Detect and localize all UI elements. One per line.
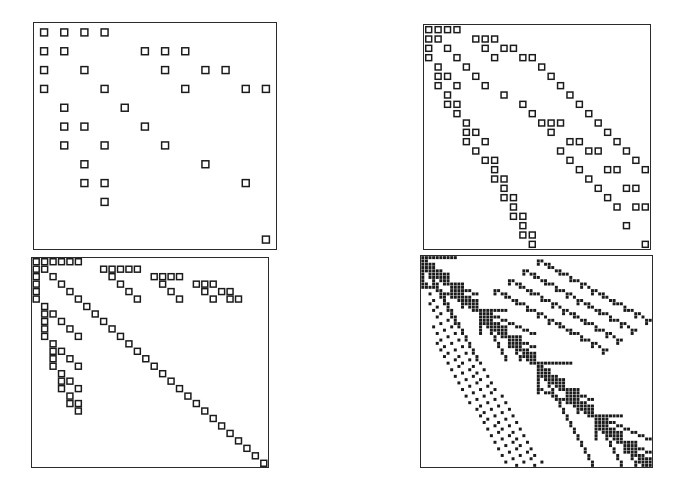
matrix-entry-marker bbox=[566, 395, 569, 398]
matrix-entry-marker bbox=[494, 309, 497, 312]
matrix-entry-marker bbox=[634, 451, 637, 454]
matrix-entry-marker bbox=[551, 306, 554, 309]
matrix-entry-marker bbox=[439, 279, 442, 282]
matrix-entry-marker bbox=[486, 401, 489, 404]
matrix-entry-marker bbox=[141, 48, 148, 55]
matrix-entry-marker bbox=[457, 381, 460, 384]
matrix-entry-marker bbox=[118, 333, 124, 339]
matrix-entry-marker bbox=[548, 375, 551, 378]
matrix-entry-marker bbox=[616, 414, 619, 417]
matrix-entry-marker bbox=[551, 388, 554, 391]
matrix-entry-marker bbox=[580, 441, 583, 444]
matrix-entry-marker bbox=[445, 73, 451, 79]
matrix-entry-marker bbox=[479, 362, 482, 365]
matrix-entry-marker bbox=[540, 388, 543, 391]
matrix-entry-marker bbox=[219, 289, 225, 295]
matrix-entry-marker bbox=[587, 411, 590, 414]
matrix-entry-marker bbox=[450, 342, 453, 345]
matrix-entry-marker bbox=[609, 431, 612, 434]
matrix-entry-marker bbox=[623, 451, 626, 454]
matrix-entry-marker bbox=[504, 296, 507, 299]
matrix-entry-marker bbox=[520, 55, 526, 61]
matrix-entry-marker bbox=[219, 423, 225, 429]
matrix-entry-marker bbox=[42, 266, 48, 272]
matrix-entry-marker bbox=[515, 283, 518, 286]
matrix-entry-marker bbox=[645, 451, 648, 454]
matrix-entry-marker bbox=[504, 319, 507, 322]
matrix-entry-marker bbox=[562, 378, 565, 381]
matrix-entry-marker bbox=[598, 418, 601, 421]
matrix-entry-marker bbox=[168, 378, 174, 384]
matrix-entry-marker bbox=[497, 289, 500, 292]
matrix-entry-marker bbox=[490, 322, 493, 325]
matrix-entry-marker bbox=[432, 269, 435, 272]
matrix-entry-marker bbox=[584, 447, 587, 450]
matrix-entry-marker bbox=[483, 319, 486, 322]
matrix-entry-marker bbox=[602, 312, 605, 315]
matrix-entry-marker bbox=[501, 292, 504, 295]
matrix-entry-marker bbox=[551, 375, 554, 378]
matrix-entry-marker bbox=[548, 362, 551, 365]
matrix-entry-marker bbox=[649, 451, 652, 454]
matrix-entry-marker bbox=[530, 332, 533, 335]
matrix-entry-marker bbox=[533, 273, 536, 276]
matrix-entry-marker bbox=[501, 411, 504, 414]
matrix-entry-marker bbox=[497, 322, 500, 325]
matrix-entry-marker bbox=[591, 322, 594, 325]
matrix-entry-marker bbox=[160, 281, 166, 287]
matrix-entry-marker bbox=[151, 274, 157, 280]
matrix-entry-marker bbox=[494, 325, 497, 328]
matrix-entry-marker bbox=[494, 398, 497, 401]
matrix-entry-marker bbox=[475, 306, 478, 309]
matrix-entry-marker bbox=[483, 322, 486, 325]
matrix-entry-marker bbox=[490, 312, 493, 315]
matrix-entry-marker bbox=[177, 296, 183, 302]
matrix-entry-marker bbox=[501, 176, 507, 182]
matrix-entry-marker bbox=[573, 296, 576, 299]
matrix-entry-marker bbox=[508, 345, 511, 348]
matrix-entry-marker bbox=[508, 424, 511, 427]
matrix-entry-marker bbox=[605, 296, 608, 299]
matrix-entry-marker bbox=[569, 398, 572, 401]
matrix-entry-marker bbox=[439, 269, 442, 272]
matrix-entry-marker bbox=[447, 302, 450, 305]
matrix-entry-marker bbox=[577, 405, 580, 408]
matrix-entry-marker bbox=[439, 276, 442, 279]
matrix-entry-marker bbox=[457, 296, 460, 299]
matrix-entry-marker bbox=[641, 454, 644, 457]
matrix-entry-marker bbox=[473, 73, 479, 79]
matrix-entry-marker bbox=[468, 345, 471, 348]
matrix-entry-marker bbox=[526, 342, 529, 345]
matrix-entry-marker bbox=[616, 319, 619, 322]
matrix-entry-marker bbox=[616, 454, 619, 457]
matrix-entry-marker bbox=[569, 276, 572, 279]
matrix-entry-marker bbox=[61, 104, 68, 111]
matrix-entry-marker bbox=[483, 411, 486, 414]
matrix-entry-marker bbox=[262, 236, 269, 243]
matrix-entry-marker bbox=[558, 289, 561, 292]
matrix-entry-marker bbox=[522, 461, 525, 464]
matrix-entry-marker bbox=[479, 388, 482, 391]
matrix-entry-marker bbox=[620, 322, 623, 325]
matrix-entry-marker bbox=[544, 368, 547, 371]
matrix-entry-marker bbox=[638, 461, 641, 464]
matrix-entry-marker bbox=[634, 447, 637, 450]
matrix-entry-marker bbox=[118, 266, 124, 272]
matrix-entry-marker bbox=[472, 348, 475, 351]
matrix-entry-marker bbox=[512, 322, 515, 325]
matrix-entry-marker bbox=[504, 332, 507, 335]
matrix-entry-marker bbox=[598, 414, 601, 417]
matrix-entry-marker bbox=[566, 401, 569, 404]
matrix-entry-marker bbox=[141, 123, 148, 130]
matrix-entry-marker bbox=[602, 292, 605, 295]
matrix-entry-marker bbox=[429, 286, 432, 289]
matrix-entry-marker bbox=[483, 316, 486, 319]
matrix-entry-marker bbox=[501, 309, 504, 312]
matrix-entry-marker bbox=[425, 283, 428, 286]
matrix-entry-marker bbox=[461, 292, 464, 295]
matrix-entry-marker bbox=[483, 421, 486, 424]
matrix-entry-marker bbox=[520, 213, 526, 219]
matrix-entry-marker bbox=[591, 289, 594, 292]
matrix-entry-marker bbox=[566, 329, 569, 332]
matrix-entry-marker bbox=[482, 45, 488, 51]
